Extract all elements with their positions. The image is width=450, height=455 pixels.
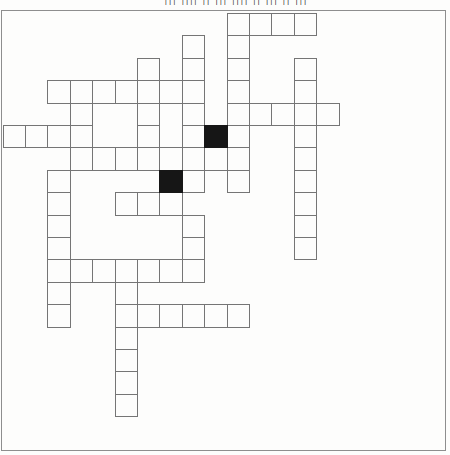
grid-cell[interactable] xyxy=(227,304,250,327)
grid-cell[interactable] xyxy=(182,237,205,260)
grid-cell[interactable] xyxy=(47,282,70,305)
grid-cell[interactable] xyxy=(204,147,227,170)
grid-cell[interactable] xyxy=(182,35,205,58)
grid-cell[interactable] xyxy=(294,147,317,170)
grid-cell[interactable] xyxy=(70,103,93,126)
grid-cell[interactable] xyxy=(249,103,272,126)
grid-cell[interactable] xyxy=(137,80,160,103)
grid-cell[interactable] xyxy=(316,103,339,126)
grid-cell[interactable] xyxy=(115,349,138,372)
grid-cell[interactable] xyxy=(159,259,182,282)
grid-cell[interactable] xyxy=(47,304,70,327)
grid-cell[interactable] xyxy=(47,170,70,193)
black-cell xyxy=(159,170,182,193)
grid-cell[interactable] xyxy=(137,192,160,215)
grid-cell[interactable] xyxy=(294,215,317,238)
grid-cell[interactable] xyxy=(227,170,250,193)
grid-cell[interactable] xyxy=(182,80,205,103)
grid-cell[interactable] xyxy=(159,304,182,327)
grid-cell[interactable] xyxy=(115,259,138,282)
grid-cell[interactable] xyxy=(137,125,160,148)
grid-cell[interactable] xyxy=(137,304,160,327)
grid-cell[interactable] xyxy=(294,80,317,103)
grid-cell[interactable] xyxy=(70,80,93,103)
grid-cell[interactable] xyxy=(182,259,205,282)
grid-cell[interactable] xyxy=(182,304,205,327)
grid-cell[interactable] xyxy=(47,259,70,282)
grid-cell[interactable] xyxy=(115,147,138,170)
grid-cell[interactable] xyxy=(137,259,160,282)
grid-cell[interactable] xyxy=(70,125,93,148)
grid-cell[interactable] xyxy=(115,80,138,103)
grid-cell[interactable] xyxy=(271,103,294,126)
grid-cell[interactable] xyxy=(227,125,250,148)
grid-cell[interactable] xyxy=(70,259,93,282)
grid-cell[interactable] xyxy=(227,35,250,58)
grid-cell[interactable] xyxy=(47,80,70,103)
grid-cell[interactable] xyxy=(294,125,317,148)
grid-cell[interactable] xyxy=(182,58,205,81)
grid-cell[interactable] xyxy=(47,215,70,238)
grid-cell[interactable] xyxy=(182,125,205,148)
grid-cell[interactable] xyxy=(227,147,250,170)
grid-cell[interactable] xyxy=(249,13,272,36)
grid-cell[interactable] xyxy=(137,58,160,81)
grid-cell[interactable] xyxy=(294,192,317,215)
grid-cell[interactable] xyxy=(115,371,138,394)
grid-cell[interactable] xyxy=(182,215,205,238)
grid-cell[interactable] xyxy=(159,192,182,215)
grid-cell[interactable] xyxy=(137,147,160,170)
grid-cell[interactable] xyxy=(182,170,205,193)
grid-cell[interactable] xyxy=(294,103,317,126)
crossword-page: ||| |||| || ||| |||| || ||| || ||| xyxy=(0,0,450,455)
grid-cell[interactable] xyxy=(92,259,115,282)
crossword-grid xyxy=(0,0,450,455)
grid-cell[interactable] xyxy=(159,80,182,103)
grid-cell[interactable] xyxy=(294,237,317,260)
grid-cell[interactable] xyxy=(182,103,205,126)
grid-cell[interactable] xyxy=(137,103,160,126)
grid-cell[interactable] xyxy=(271,13,294,36)
grid-cell[interactable] xyxy=(115,192,138,215)
grid-cell[interactable] xyxy=(70,147,93,170)
grid-cell[interactable] xyxy=(92,80,115,103)
grid-cell[interactable] xyxy=(294,13,317,36)
grid-cell[interactable] xyxy=(227,80,250,103)
grid-cell[interactable] xyxy=(204,304,227,327)
grid-cell[interactable] xyxy=(47,125,70,148)
grid-cell[interactable] xyxy=(159,147,182,170)
grid-cell[interactable] xyxy=(115,282,138,305)
grid-cell[interactable] xyxy=(115,394,138,417)
grid-cell[interactable] xyxy=(227,13,250,36)
grid-cell[interactable] xyxy=(47,192,70,215)
grid-cell[interactable] xyxy=(115,304,138,327)
grid-cell[interactable] xyxy=(227,103,250,126)
grid-cell[interactable] xyxy=(25,125,48,148)
grid-cell[interactable] xyxy=(92,147,115,170)
grid-cell[interactable] xyxy=(47,237,70,260)
black-cell xyxy=(204,125,227,148)
grid-cell[interactable] xyxy=(294,170,317,193)
grid-cell[interactable] xyxy=(294,58,317,81)
grid-cell[interactable] xyxy=(115,327,138,350)
grid-cell[interactable] xyxy=(227,58,250,81)
grid-cell[interactable] xyxy=(182,147,205,170)
grid-cell[interactable] xyxy=(3,125,26,148)
